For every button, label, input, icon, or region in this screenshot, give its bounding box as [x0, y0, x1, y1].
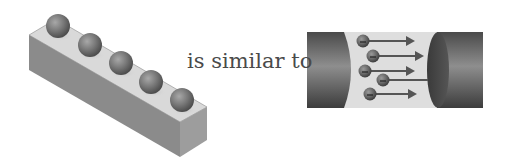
wire-with-electrons [307, 32, 483, 108]
ball [78, 33, 105, 60]
diagram-canvas [0, 0, 506, 168]
electron [359, 65, 372, 78]
block-with-balls [29, 14, 207, 157]
electron [357, 35, 370, 48]
ball [139, 70, 166, 97]
left-wire-segment [307, 32, 351, 108]
caption-text: is similar to [187, 49, 312, 73]
electron [364, 88, 377, 101]
right-wire-end-face [427, 32, 449, 108]
electron [377, 74, 390, 87]
diagram: is similar to [0, 0, 506, 168]
ball [109, 51, 136, 78]
ball [46, 14, 73, 41]
ball [170, 88, 197, 115]
electron [367, 50, 380, 63]
